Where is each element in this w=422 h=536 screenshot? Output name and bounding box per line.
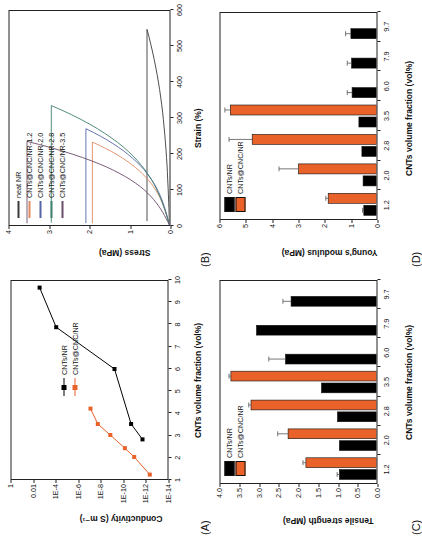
panel-d-x-tick: 9.7 xyxy=(381,15,390,39)
panel-a-x-tick: 6 xyxy=(172,357,181,381)
panel-a-y-tick-mark xyxy=(100,480,101,483)
panel-b-y-tick: 2 xyxy=(84,230,93,258)
panel-a-x-tick: 9 xyxy=(172,290,181,314)
panel-d-y-tick-mark xyxy=(324,220,325,223)
legend-entry: CNTs@CNC/NR xyxy=(234,141,245,212)
panel-d-x-tick: 7.9 xyxy=(381,45,390,69)
panel-d-x-tick-mark xyxy=(377,11,380,12)
panel-b-x-tick-mark xyxy=(170,225,173,226)
panel-b-content: (B) Stress (MPa) Strain (%) 43210 010020… xyxy=(0,0,211,268)
panel-c-y-tick: 3.0 xyxy=(254,488,263,516)
panel-c-x-axis-title: CNTs volume fraction (vol%) xyxy=(403,325,413,440)
panel-c-y-tick: 0.0 xyxy=(372,488,381,516)
panel-b-x-tick: 0 xyxy=(174,214,183,238)
panel-b-x-tick: 200 xyxy=(174,142,183,166)
legend-entry: CNTs@CNC/NR xyxy=(69,322,80,396)
panel-c-x-tick-mark xyxy=(377,337,380,338)
panel-c-label: (C) xyxy=(409,520,421,535)
panel-c-y-tick-mark xyxy=(377,484,378,487)
legend-label: CNTs/NR xyxy=(59,345,68,375)
legend-label: CNTs/NR xyxy=(224,428,233,458)
panel-a-x-tick: 10 xyxy=(172,268,181,292)
panel-a-y-tick: 1E-14 xyxy=(163,484,172,512)
panel-c-y-tick-mark xyxy=(259,484,260,487)
panel-a-y-tick-mark xyxy=(78,480,79,483)
panel-d-x-tick-mark xyxy=(377,160,380,161)
panel-d-y-tick-mark xyxy=(219,220,220,223)
panel-a-y-tick: 1E-10 xyxy=(118,484,127,512)
panel-a-y-tick: 1E-4 xyxy=(50,484,59,512)
panel-a-content: (A) Conductivity (S m⁻¹) CNTs volume fra… xyxy=(0,268,211,536)
legend-label: CNTs@CNC/NR xyxy=(235,141,244,194)
legend-color-swatch xyxy=(235,461,245,476)
panel-c-y-tick: 0.5 xyxy=(352,488,361,516)
panel-c-x-tick-mark xyxy=(377,454,380,455)
panel-a: (A) Conductivity (S m⁻¹) CNTs volume fra… xyxy=(0,268,211,536)
panel-c-y-tick-mark xyxy=(278,484,279,487)
panel-a-x-tick-mark xyxy=(168,390,171,391)
panel-b-y-tick-mark xyxy=(49,226,50,229)
panel-c-x-tick-mark xyxy=(377,279,380,280)
panel-b-x-tick-mark xyxy=(170,189,173,190)
panel-d-x-tick-mark xyxy=(377,130,380,131)
legend-label: CNTs@CNC/NR-2.0 xyxy=(35,133,44,198)
panel-d-label: (D) xyxy=(409,252,421,267)
panel-c-y-tick-mark xyxy=(357,484,358,487)
panel-d-y-tick-mark xyxy=(351,220,352,223)
panel-d: (D) Young's modulus (MPa) CNTs volume fr… xyxy=(211,0,422,268)
panel-d-y-tick: 3 xyxy=(293,224,302,252)
panel-a-legend: CNTs/NRCNTs@CNC/NR xyxy=(58,322,80,396)
panel-b: (B) Stress (MPa) Strain (%) 43210 010020… xyxy=(0,0,211,268)
panel-a-x-tick: 7 xyxy=(172,335,181,359)
panel-d-y-tick: 6 xyxy=(214,224,223,252)
legend-line-marker xyxy=(71,378,78,396)
panel-b-y-tick: 3 xyxy=(44,230,53,258)
panel-b-x-axis-title: Strain (%) xyxy=(192,108,202,148)
legend-label: neat NR xyxy=(13,172,22,198)
panel-c-x-tick-mark xyxy=(377,366,380,367)
legend-label: CNTs@CNC/NR xyxy=(235,405,244,458)
legend-label: CNTs/NR xyxy=(224,164,233,194)
panel-c-y-tick: 1.5 xyxy=(313,488,322,516)
panel-d-y-tick-mark xyxy=(272,220,273,223)
legend-label: CNTs@CNC/NR-3.5 xyxy=(57,133,66,198)
panel-a-x-tick-mark xyxy=(168,435,171,436)
panel-a-y-tick: 1E-8 xyxy=(95,484,104,512)
panel-b-y-tick: 4 xyxy=(3,230,12,258)
panel-d-y-tick-mark xyxy=(245,220,246,223)
panel-c-x-tick: 1.2 xyxy=(381,457,390,481)
panel-b-legend: neat NRCNTs@CNC/NR-1.2CNTs@CNC/NR-2.0CNT… xyxy=(12,133,67,218)
panel-a-label: (A) xyxy=(198,520,210,535)
panel-d-y-tick: 2 xyxy=(319,224,328,252)
panel-c-x-tick-mark xyxy=(377,396,380,397)
legend-entry: CNTs@CNC/NR-2.0 xyxy=(34,133,45,218)
panel-a-x-tick: 3 xyxy=(172,424,181,448)
panel-a-x-tick-mark xyxy=(168,479,171,480)
legend-entry: CNTs@CNC/NR-2.8 xyxy=(45,133,56,218)
legend-entry: CNTs@CNC/NR-1.2 xyxy=(23,133,34,218)
panel-a-y-tick: 1E-12 xyxy=(140,484,149,512)
panel-b-x-tick: 100 xyxy=(174,178,183,202)
legend-line-marker xyxy=(60,378,67,396)
legend-line-swatch xyxy=(39,201,41,218)
panel-a-x-tick: 4 xyxy=(172,401,181,425)
panel-c-x-tick-mark xyxy=(377,425,380,426)
panel-a-x-tick-mark xyxy=(168,279,171,280)
panel-a-x-tick: 1 xyxy=(172,468,181,492)
panel-c-x-tick: 6.0 xyxy=(381,341,390,365)
panel-d-x-tick: 2.8 xyxy=(381,134,390,158)
panel-c-y-tick: 2.0 xyxy=(293,488,302,516)
panel-a-y-axis-title: Conductivity (S m⁻¹) xyxy=(79,514,162,524)
panel-a-x-tick: 8 xyxy=(172,312,181,336)
legend-line-swatch xyxy=(61,201,63,218)
panel-c-y-tick: 2.5 xyxy=(273,488,282,516)
panel-b-x-tick-mark xyxy=(170,117,173,118)
panel-a-x-tick: 5 xyxy=(172,379,181,403)
figure-canvas: (A) Conductivity (S m⁻¹) CNTs volume fra… xyxy=(0,0,422,536)
panel-c-y-tick: 3.5 xyxy=(234,488,243,516)
panel-a-y-tick-mark xyxy=(55,480,56,483)
panel-d-x-tick-mark xyxy=(377,100,380,101)
panel-c-y-tick-mark xyxy=(239,484,240,487)
panel-c-y-axis-title: Tensile strength (MPa) xyxy=(282,516,373,526)
panel-b-y-tick: 0 xyxy=(165,230,174,258)
